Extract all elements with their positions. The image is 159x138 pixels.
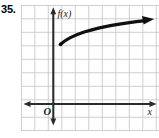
graph-background	[21, 5, 159, 131]
origin-label: O	[44, 106, 52, 117]
coordinate-plane-graph: f(x) x O	[21, 5, 159, 131]
x-axis-label: x	[147, 106, 153, 117]
curve-start-endpoint	[59, 42, 63, 46]
graph-svg: f(x) x O	[21, 5, 159, 131]
y-axis-label: f(x)	[58, 8, 73, 20]
figure-page: 35.	[0, 0, 159, 138]
problem-number: 35.	[1, 3, 16, 15]
